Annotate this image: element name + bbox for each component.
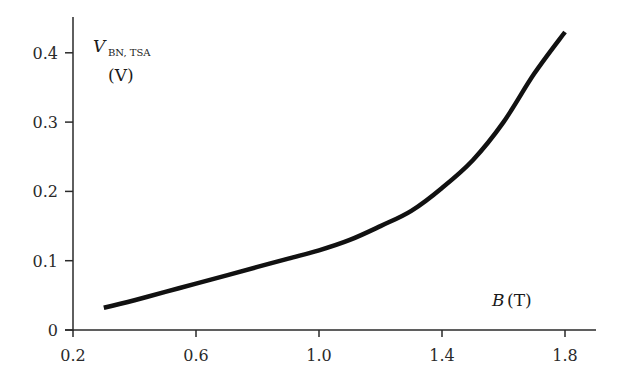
y-axis-unit: (V) — [108, 65, 134, 85]
x-tick-label: 0.2 — [60, 346, 85, 365]
y-ticks: 00.10.20.30.4 — [33, 44, 73, 340]
x-tick-label: 1.8 — [552, 346, 577, 365]
x-axis-title: B (T) — [491, 290, 532, 310]
y-axis-var: V — [93, 36, 107, 56]
y-axis: 00.10.20.30.4 — [33, 17, 73, 340]
chart: 00.10.20.30.4 0.20.61.01.41.8 V BN, TSA … — [0, 0, 624, 383]
y-tick-label: 0 — [48, 321, 58, 340]
y-tick-label: 0.1 — [33, 252, 58, 271]
x-tick-label: 0.6 — [183, 346, 208, 365]
y-axis-subscript: BN, TSA — [108, 47, 151, 58]
x-axis: 0.20.61.01.41.8 — [60, 330, 596, 365]
y-tick-label: 0.4 — [33, 44, 58, 63]
y-tick-label: 0.3 — [33, 113, 58, 132]
y-axis-title: V BN, TSA (V) — [93, 36, 151, 85]
x-ticks: 0.20.61.01.41.8 — [60, 330, 577, 365]
x-tick-label: 1.0 — [306, 346, 331, 365]
x-axis-unit: (T) — [507, 290, 532, 310]
y-tick-label: 0.2 — [33, 182, 58, 201]
x-axis-var: B — [491, 290, 505, 310]
x-tick-label: 1.4 — [429, 346, 454, 365]
data-line — [104, 32, 565, 308]
